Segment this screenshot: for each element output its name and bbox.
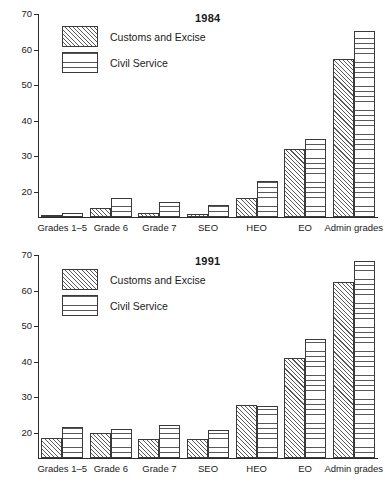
x-axis-category-label: Grade 7 — [142, 464, 176, 474]
y-tick-label: 40 — [21, 357, 32, 367]
bar-civil-service — [354, 261, 375, 458]
bar-customs-and-excise — [284, 358, 305, 458]
bar-pair — [284, 14, 326, 217]
chart-panel-1984: 1984 Customs and Excise Civil Service 20… — [0, 0, 385, 245]
x-axis-category-label: SEO — [198, 464, 218, 474]
y-tick-label: 20 — [21, 428, 32, 438]
x-axis-category-label: HEO — [246, 223, 267, 233]
bar-pair — [41, 255, 83, 458]
bar-pair — [333, 255, 375, 458]
bar-pair — [187, 255, 229, 458]
bar-pair — [284, 255, 326, 458]
bar-civil-service — [159, 425, 180, 458]
bar-customs-and-excise — [284, 149, 305, 217]
y-tick-label: 20 — [21, 187, 32, 197]
bar-civil-service — [305, 339, 326, 458]
bar-pair — [138, 255, 180, 458]
bar-customs-and-excise — [90, 208, 111, 217]
bar-customs-and-excise — [236, 198, 257, 217]
x-axis-category-label: EO — [298, 223, 312, 233]
bar-customs-and-excise — [41, 438, 62, 458]
bar-customs-and-excise — [138, 213, 159, 217]
y-tick-label: 60 — [21, 45, 32, 55]
y-tick-label: 70 — [21, 250, 32, 260]
bar-civil-service — [111, 429, 132, 458]
plot-area-1991: 203040506070 — [38, 255, 378, 458]
x-axis-category-label: Grades 1–5 — [37, 464, 87, 474]
y-tick-label: 50 — [21, 80, 32, 90]
y-tick-label: 40 — [21, 116, 32, 126]
figure-root: 1984 Customs and Excise Civil Service 20… — [0, 0, 385, 491]
y-tick-label: 60 — [21, 286, 32, 296]
bar-civil-service — [305, 139, 326, 217]
y-tick-label: 30 — [21, 152, 32, 162]
bar-pair — [90, 255, 132, 458]
bar-pair — [236, 14, 278, 217]
bar-civil-service — [62, 213, 83, 217]
bar-customs-and-excise — [187, 439, 208, 458]
x-axis-category-label: Grade 6 — [94, 223, 128, 233]
bar-civil-service — [111, 198, 132, 217]
x-axis-category-label: Admin grades — [324, 223, 383, 233]
bar-pair — [90, 14, 132, 217]
y-tick-label: 70 — [21, 9, 32, 19]
bar-civil-service — [208, 205, 229, 217]
y-tick-label: 30 — [21, 393, 32, 403]
bar-group-1984 — [38, 14, 378, 217]
bar-civil-service — [354, 31, 375, 217]
chart-panel-1991: 1991 Customs and Excise Civil Service 20… — [0, 245, 385, 491]
x-axis-category-label: SEO — [198, 223, 218, 233]
bar-pair — [236, 255, 278, 458]
x-axis-category-label: Grade 7 — [142, 223, 176, 233]
bar-customs-and-excise — [236, 405, 257, 458]
bar-civil-service — [62, 427, 83, 458]
bar-customs-and-excise — [187, 214, 208, 217]
bar-group-1991 — [38, 255, 378, 458]
y-tick-label: 50 — [21, 321, 32, 331]
bar-customs-and-excise — [138, 439, 159, 458]
bar-pair — [41, 14, 83, 217]
bar-customs-and-excise — [333, 282, 354, 458]
x-axis-category-label: EO — [298, 464, 312, 474]
bar-civil-service — [159, 202, 180, 217]
bar-civil-service — [257, 181, 278, 217]
bar-civil-service — [208, 430, 229, 458]
x-axis-category-label: Grade 6 — [94, 464, 128, 474]
bar-pair — [138, 14, 180, 217]
bar-customs-and-excise — [41, 215, 62, 217]
x-axis-category-label: HEO — [246, 464, 267, 474]
plot-area-1984: 203040506070 — [38, 14, 378, 217]
x-axis-category-label: Grades 1–5 — [37, 223, 87, 233]
bar-pair — [333, 14, 375, 217]
bar-customs-and-excise — [333, 59, 354, 217]
x-axis-1991 — [38, 458, 378, 459]
bar-civil-service — [257, 406, 278, 458]
x-axis-category-label: Admin grades — [324, 464, 383, 474]
bar-pair — [187, 14, 229, 217]
bar-customs-and-excise — [90, 433, 111, 458]
x-axis-1984 — [38, 217, 378, 218]
